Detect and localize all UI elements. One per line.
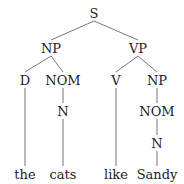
node-nom2: NOM (139, 105, 174, 118)
node-w1: the (14, 168, 35, 181)
node-n2: N (151, 137, 162, 150)
tree-edge (51, 56, 63, 72)
node-n1: N (57, 105, 68, 118)
node-s: S (90, 7, 99, 20)
node-nom1: NOM (45, 74, 80, 87)
node-w2: cats (50, 168, 77, 181)
node-w4: Sandy (137, 168, 178, 181)
node-d: D (20, 74, 30, 87)
node-np1: NP (41, 42, 61, 55)
node-vp: VP (129, 42, 147, 55)
tree-edge (51, 21, 94, 40)
node-w3: like (104, 168, 128, 181)
tree-edge (94, 21, 138, 40)
tree-edge (25, 56, 51, 72)
tree-edges (0, 0, 184, 184)
node-np2: NP (147, 74, 167, 87)
tree-edge (138, 56, 157, 72)
node-v: V (111, 74, 120, 87)
tree-edge (116, 56, 138, 72)
